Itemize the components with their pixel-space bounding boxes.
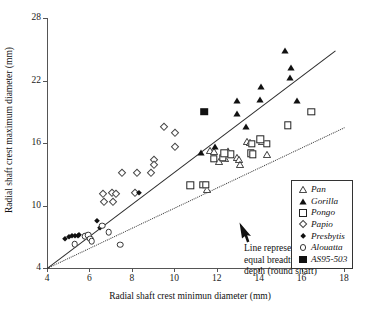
legend-label: Papio — [311, 220, 333, 229]
legend-label: Pan — [311, 185, 326, 194]
x-tick-label: 10 — [159, 274, 189, 284]
data-point-alouatta — [105, 229, 112, 236]
legend-marker-open-triangle-icon — [295, 186, 311, 193]
legend-marker-open-square-icon — [295, 209, 311, 216]
legend-item-presbytis: Presbytis — [295, 230, 347, 242]
data-point-pan — [236, 154, 244, 172]
data-point-gorilla — [233, 103, 241, 121]
data-point-gorilla — [286, 67, 294, 85]
data-point-pongo — [186, 181, 193, 188]
data-point-gorilla — [197, 142, 205, 160]
data-point-alouatta — [88, 238, 95, 245]
y-tick-mark — [43, 81, 47, 82]
y-tick-label: 16 — [32, 138, 42, 148]
x-axis-title: Radial shaft crest minimun diameter (mm) — [0, 291, 380, 301]
data-point-gorilla — [293, 90, 301, 108]
legend-marker-open-diamond-small-icon — [295, 221, 311, 227]
legend-item-pan: Pan — [295, 184, 347, 196]
data-point-gorilla — [256, 89, 264, 107]
x-tick-label: 4 — [32, 274, 62, 284]
legend-item-pongo: Pongo — [295, 207, 347, 219]
legend-marker-filled-diamond-icon — [295, 234, 311, 238]
data-point-pongo — [227, 151, 234, 158]
y-tick-label: 4 — [36, 263, 41, 273]
legend-label: AS95-503 — [311, 255, 347, 264]
data-point-gorilla — [242, 116, 250, 134]
data-point-pongo — [249, 151, 256, 158]
legend-label: Gorilla — [311, 197, 338, 206]
legend-item-alouatta: Alouatta — [295, 242, 347, 254]
legend-label: Alouatta — [311, 243, 343, 252]
data-point-gorilla — [211, 136, 219, 154]
x-tick-label: 6 — [74, 274, 104, 284]
data-point-pongo — [284, 122, 291, 129]
y-axis-title: Radial shaft crest maximum diameter (mm) — [4, 15, 14, 245]
x-tick-label: 12 — [202, 274, 232, 284]
x-tick-label: 8 — [117, 274, 147, 284]
legend-item-as95-503: AS95-503 — [295, 254, 347, 266]
scatter-plot-figure: 410162228 4681012141618 Line representin… — [0, 0, 380, 313]
data-point-pongo — [257, 136, 264, 143]
data-point-pongo — [248, 140, 255, 147]
data-point-alouatta — [71, 241, 78, 248]
legend-label: Presbytis — [311, 232, 345, 241]
data-point-pongo — [202, 181, 209, 188]
y-tick-label: 28 — [32, 13, 42, 23]
data-point-as95-503 — [200, 108, 208, 116]
legend-marker-filled-triangle-icon — [295, 198, 311, 205]
y-tick-mark — [43, 206, 47, 207]
x-tick-mark — [174, 268, 175, 272]
legend-label: Pongo — [311, 208, 335, 217]
legend-marker-filled-square-icon — [295, 256, 311, 264]
data-point-pongo — [220, 150, 227, 157]
y-tick-label: 10 — [32, 201, 42, 211]
legend: PanGorillaPongoPapioPresbytisAlouattaAS9… — [291, 180, 353, 269]
data-point-gorilla — [281, 40, 289, 58]
x-tick-mark — [89, 268, 90, 272]
legend-item-gorilla: Gorilla — [295, 196, 347, 208]
legend-item-papio: Papio — [295, 219, 347, 231]
legend-marker-open-circle-small-icon — [295, 244, 311, 251]
y-tick-mark — [43, 143, 47, 144]
data-point-pongo — [307, 108, 314, 115]
x-tick-mark — [132, 268, 133, 272]
x-tick-mark — [217, 268, 218, 272]
data-point-pongo — [263, 140, 270, 147]
y-tick-mark — [43, 18, 47, 19]
y-axis-line — [47, 18, 48, 268]
data-point-alouatta — [117, 241, 124, 248]
y-tick-label: 22 — [32, 76, 42, 86]
data-point-pongo — [210, 155, 217, 162]
